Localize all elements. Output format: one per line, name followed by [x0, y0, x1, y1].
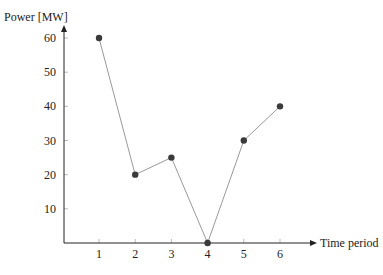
x-axis-ticks: 123456	[96, 239, 283, 261]
line-chart: Power [MW] 102030405060 123456 Time peri…	[0, 0, 383, 275]
power-series-line	[99, 38, 280, 243]
x-tick-label: 1	[96, 247, 102, 261]
y-tick-label: 40	[44, 99, 56, 113]
y-axis-arrow-icon	[61, 25, 67, 32]
x-tick-label: 6	[277, 247, 283, 261]
data-point-marker	[132, 171, 138, 177]
y-axis-label: Power [MW]	[4, 10, 68, 24]
x-tick-label: 3	[168, 247, 174, 261]
data-point-marker	[241, 137, 247, 143]
y-tick-label: 20	[44, 168, 56, 182]
data-point-marker	[96, 35, 102, 41]
y-tick-label: 60	[44, 31, 56, 45]
x-axis-label: Time period	[320, 236, 379, 250]
x-axis-arrow-icon	[310, 240, 317, 246]
x-tick-label: 2	[132, 247, 138, 261]
y-tick-label: 50	[44, 65, 56, 79]
data-point-marker	[277, 103, 283, 109]
y-tick-label: 30	[44, 134, 56, 148]
y-tick-label: 10	[44, 202, 56, 216]
power-series-markers	[96, 35, 283, 246]
x-tick-label: 5	[241, 247, 247, 261]
data-point-marker	[204, 240, 210, 246]
x-tick-label: 4	[205, 247, 211, 261]
data-point-marker	[168, 154, 174, 160]
